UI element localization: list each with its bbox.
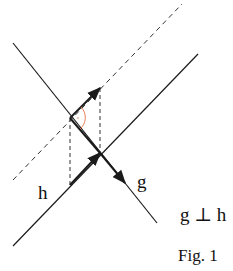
right-angle-arc-icon — [80, 107, 85, 129]
vector-on-g-arrow — [100, 153, 125, 183]
segment-on-g — [70, 118, 100, 153]
figure-caption: Fig. 1 — [178, 247, 218, 264]
perpendicular-lines-diagram — [0, 0, 233, 271]
perpendicular-relation-label: g ⊥ h — [180, 205, 226, 224]
line-g — [13, 43, 157, 223]
label-h: h — [38, 183, 48, 202]
line-h — [13, 54, 198, 246]
right-angle-dot-icon — [77, 117, 79, 119]
vector-on-h-arrow — [70, 153, 100, 185]
dashed-parallel-line — [13, 4, 182, 180]
label-g: g — [137, 172, 147, 191]
